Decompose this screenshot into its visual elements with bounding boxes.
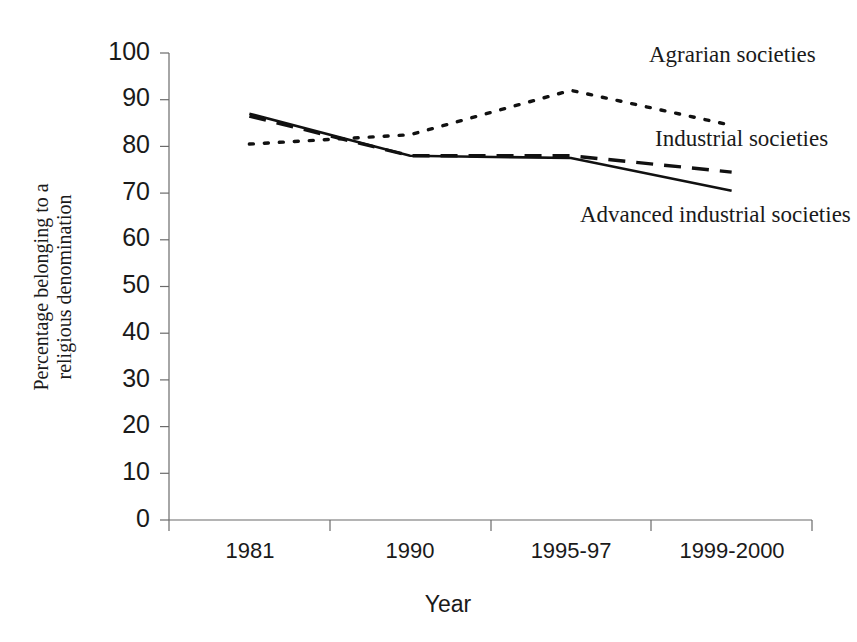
x-axis-title: Year (425, 591, 472, 617)
y-axis-tick-labels: 0 10 20 30 40 50 60 70 80 90 100 (108, 37, 150, 532)
y-tick-label-70: 70 (122, 177, 150, 205)
y-tick-label-0: 0 (136, 504, 150, 532)
x-axis-ticks (169, 520, 812, 531)
x-tick-label-1990: 1990 (386, 538, 435, 563)
series-label-industrial: Industrial societies (655, 126, 828, 151)
y-tick-label-10: 10 (122, 457, 150, 485)
y-tick-label-80: 80 (122, 130, 150, 158)
y-tick-label-100: 100 (108, 37, 150, 65)
y-axis-ticks (160, 53, 169, 520)
line-chart-canvas: 0 10 20 30 40 50 60 70 80 90 100 1981 19… (0, 0, 857, 642)
series-label-agrarian: Agrarian societies (649, 42, 816, 67)
y-tick-label-40: 40 (122, 317, 150, 345)
y-tick-label-60: 60 (122, 223, 150, 251)
x-tick-label-1999-2000: 1999-2000 (679, 538, 784, 563)
x-tick-label-1981: 1981 (226, 538, 275, 563)
y-tick-label-30: 30 (122, 364, 150, 392)
y-tick-label-20: 20 (122, 410, 150, 438)
series-label-advanced-industrial: Advanced industrial societies (580, 202, 851, 227)
y-axis-title-line1: Percentage belonging to a (30, 183, 53, 390)
y-axis-title-line2: religious denomination (53, 195, 76, 380)
x-axis-tick-labels: 1981 1990 1995-97 1999-2000 (226, 538, 785, 563)
x-tick-label-1995-97: 1995-97 (531, 538, 612, 563)
y-tick-label-90: 90 (122, 83, 150, 111)
y-tick-label-50: 50 (122, 270, 150, 298)
chart-figure: 0 10 20 30 40 50 60 70 80 90 100 1981 19… (0, 0, 857, 642)
y-axis-title: Percentage belonging to a religious deno… (30, 183, 76, 390)
